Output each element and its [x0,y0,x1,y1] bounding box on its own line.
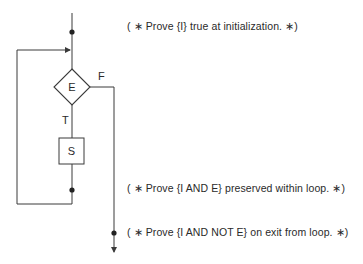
false-label: F [98,70,105,82]
exit-assertion-point [111,230,116,235]
annotation-preserve: ( ∗ Prove {I AND E} preserved within loo… [127,182,345,194]
true-label: T [62,114,69,126]
flowchart-canvas: E F T S [0,0,363,264]
false-branch-edge [90,87,114,252]
annotation-exit: ( ∗ Prove {I AND NOT E} on exit from loo… [127,226,348,238]
loop-back-edge [17,50,72,204]
statement-label: S [68,145,75,157]
preserve-assertion-point [69,187,74,192]
annotation-init: ( ∗ Prove {I} true at initialization. ∗) [127,20,298,32]
decision-label: E [68,81,75,93]
init-assertion-point [69,29,74,34]
